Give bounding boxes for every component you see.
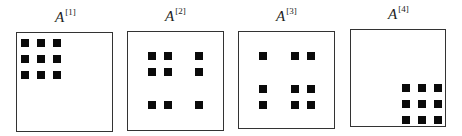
nonzero-block: [418, 116, 426, 124]
nonzero-block: [148, 52, 156, 60]
nonzero-block: [37, 39, 45, 47]
nonzero-block: [148, 68, 156, 76]
nonzero-block: [307, 101, 315, 109]
matrix-label: A: [276, 8, 285, 24]
nonzero-block: [434, 100, 442, 108]
nonzero-block: [21, 55, 29, 63]
nonzero-block: [53, 39, 61, 47]
nonzero-block: [402, 100, 410, 108]
nonzero-block: [434, 84, 442, 92]
nonzero-block: [259, 85, 267, 93]
nonzero-block: [307, 52, 315, 60]
nonzero-block: [195, 101, 203, 109]
nonzero-block: [418, 100, 426, 108]
nonzero-block: [53, 71, 61, 79]
nonzero-block: [259, 101, 267, 109]
nonzero-block: [164, 68, 172, 76]
nonzero-block: [37, 55, 45, 63]
nonzero-block: [148, 101, 156, 109]
matrix-title-a2: A[2]: [165, 8, 186, 24]
matrix-title-a3: A[3]: [276, 8, 297, 24]
matrix-title-a1: A[1]: [55, 9, 76, 25]
matrix-frame-a4: [350, 29, 446, 127]
nonzero-block: [291, 52, 299, 60]
nonzero-block: [53, 55, 61, 63]
matrix-superscript: [3]: [286, 6, 297, 16]
nonzero-block: [37, 71, 45, 79]
matrix-frame-a1: [16, 32, 113, 132]
matrix-superscript: [1]: [65, 7, 76, 17]
nonzero-block: [402, 84, 410, 92]
nonzero-block: [259, 52, 267, 60]
nonzero-block: [307, 85, 315, 93]
matrix-title-a4: A[4]: [388, 6, 409, 22]
matrix-label: A: [55, 9, 64, 25]
nonzero-block: [434, 116, 442, 124]
nonzero-block: [291, 101, 299, 109]
matrix-superscript: [2]: [175, 6, 186, 16]
nonzero-block: [21, 71, 29, 79]
matrix-label: A: [165, 8, 174, 24]
nonzero-block: [164, 101, 172, 109]
matrix-frame-a2: [127, 31, 224, 131]
nonzero-block: [195, 52, 203, 60]
nonzero-block: [164, 52, 172, 60]
nonzero-block: [195, 68, 203, 76]
matrix-label: A: [388, 6, 397, 22]
nonzero-block: [291, 85, 299, 93]
matrix-frame-a3: [238, 31, 335, 129]
nonzero-block: [402, 116, 410, 124]
nonzero-block: [21, 39, 29, 47]
nonzero-block: [418, 84, 426, 92]
matrix-superscript: [4]: [398, 4, 409, 14]
